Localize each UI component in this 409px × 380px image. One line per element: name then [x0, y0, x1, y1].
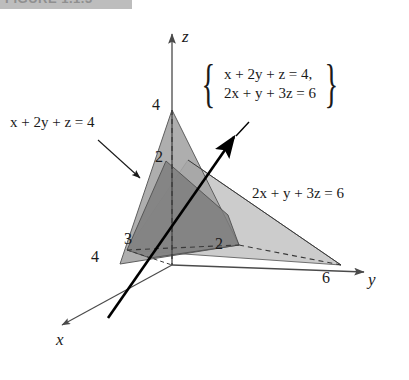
x-axis-label: x — [56, 330, 64, 350]
y-axis-label: y — [368, 270, 376, 290]
tick-label-y-6: 6 — [322, 269, 330, 287]
tick-label-x-4: 4 — [91, 248, 99, 266]
tick-label-y-2: 2 — [215, 235, 223, 253]
tick-label-z-4: 4 — [152, 96, 160, 114]
figure-container: FIGURE 1.1.3 — [0, 0, 409, 380]
tick-label-z-2: 2 — [155, 148, 163, 166]
brace-right: } — [325, 62, 339, 106]
y-axis — [172, 265, 364, 272]
system-of-equations-label: { x + 2y + z = 4, 2x + y + 3z = 6 } — [196, 62, 344, 106]
z-axis-label: z — [182, 27, 189, 47]
system-equation-row-1: x + 2y + z = 4, — [224, 65, 316, 84]
leader-arrow-plane1 — [98, 140, 140, 178]
system-equation-row-2: 2x + y + 3z = 6 — [224, 84, 316, 103]
x-axis — [62, 265, 172, 325]
leader-stroke-system — [236, 122, 249, 136]
plane-1-equation-label: x + 2y + z = 4 — [10, 114, 95, 131]
tick-label-x-3: 3 — [124, 230, 132, 248]
brace-left: { — [202, 62, 216, 106]
plane-2-equation-label: 2x + y + 3z = 6 — [252, 185, 344, 202]
